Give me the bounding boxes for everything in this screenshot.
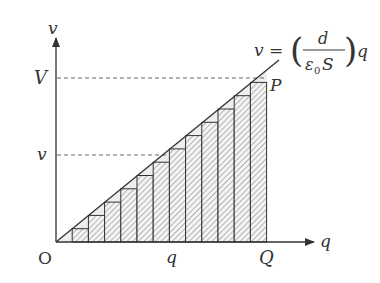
denominator-subscript: 0 xyxy=(314,65,320,76)
right-paren: ) xyxy=(344,30,357,70)
q-tick-label: q xyxy=(166,247,177,267)
v-tick-label: v xyxy=(37,144,47,164)
Q-tick-label: Q xyxy=(259,247,274,268)
x-axis-label: q xyxy=(320,231,331,251)
denominator-epsilon: ε xyxy=(305,55,314,74)
origin-label: O xyxy=(38,248,52,268)
equation-lhs: v = xyxy=(254,40,283,60)
equation: v = ( d ε 0 S ) q xyxy=(254,29,368,76)
denominator-S: S xyxy=(322,54,334,74)
left-paren: ( xyxy=(290,30,303,70)
y-axis-label: v xyxy=(48,18,58,38)
point-P-label: P xyxy=(269,75,282,95)
bars-group xyxy=(72,82,266,242)
capacitor-charge-voltage-diagram: v q O V v q Q P v = ( d ε 0 S ) q xyxy=(0,0,380,283)
equation-rhs: q xyxy=(357,41,368,61)
equation-numerator: d xyxy=(318,29,328,48)
V-tick-label: V xyxy=(34,67,49,88)
